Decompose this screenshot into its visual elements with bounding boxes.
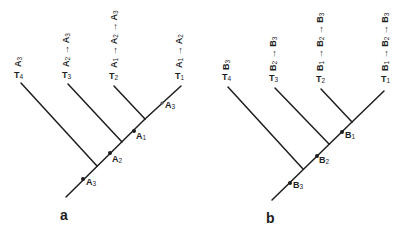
taxon-label-b-T3: T3 xyxy=(269,74,278,84)
panel-label-a: a xyxy=(60,208,68,222)
taxon-label-a-T2: T2 xyxy=(109,72,118,82)
marker-label-a3-reversal: A3 xyxy=(165,101,175,111)
branch-a-T3 xyxy=(68,84,122,142)
trait-string-a-T2: A1 → A2 → A3 xyxy=(110,10,120,68)
branch-a-T2 xyxy=(114,86,145,119)
trait-string-b-T1: B1 → B2 → B3 xyxy=(381,13,391,71)
marker-label-b3: B3 xyxy=(293,181,303,191)
taxon-label-b-T1: T1 xyxy=(381,75,390,85)
trait-string-a-T3: A2 → A3 xyxy=(62,33,72,67)
marker-label-b2: B2 xyxy=(319,156,329,166)
branch-a-T4 xyxy=(21,83,97,166)
trait-string-b-T3: B2 → B3 xyxy=(269,37,279,71)
trait-string-b-T2: B1 → B2 → B3 xyxy=(316,13,326,71)
taxon-label-b-T4: T4 xyxy=(222,73,231,83)
branch-b-T1 xyxy=(352,91,384,122)
trait-string-a-T1: A1 → A2 xyxy=(175,34,185,68)
marker-label-a3: A3 xyxy=(86,178,96,188)
trait-string-b-T4: B3 xyxy=(222,60,232,70)
trait-string-a-T4: A3 xyxy=(14,57,24,67)
marker-dot-b1 xyxy=(340,130,344,134)
marker-label-a2: A2 xyxy=(112,155,122,165)
taxon-label-b-T2: T2 xyxy=(316,75,325,85)
branch-b-T3 xyxy=(275,88,329,144)
marker-label-a1: A1 xyxy=(136,132,146,142)
marker-label-b1: B1 xyxy=(345,131,355,141)
panel-label-b: b xyxy=(266,211,275,225)
branch-b-T4 xyxy=(228,87,303,169)
branch-b-T2 xyxy=(321,89,352,122)
taxon-label-a-T1: T1 xyxy=(175,72,184,82)
marker-dot-a3-reversal xyxy=(160,101,163,104)
cladogram-b xyxy=(228,87,384,200)
taxon-label-a-T4: T4 xyxy=(14,71,23,81)
marker-dot-a3 xyxy=(81,177,85,181)
trunk-b xyxy=(272,122,352,200)
cladogram-canvas xyxy=(0,0,402,235)
cladogram-a xyxy=(21,83,181,197)
marker-dot-b3 xyxy=(288,181,292,185)
taxon-label-a-T3: T3 xyxy=(62,71,71,81)
